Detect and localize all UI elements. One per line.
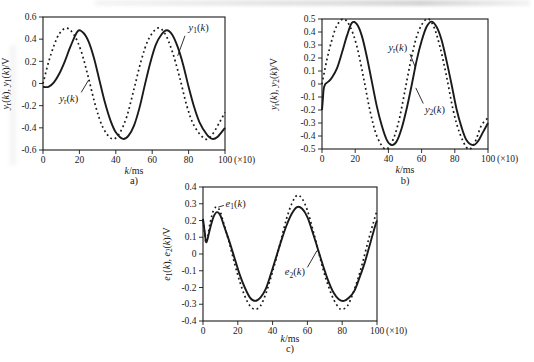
y-tick-label: -0.6: [21, 145, 36, 155]
y-tick-label: 0: [192, 249, 197, 259]
y-tick-label: -0.4: [300, 131, 315, 141]
y-axis-label: yr(k), y1(k)/V: [0, 57, 13, 111]
y-tick-label: 0.2: [304, 53, 316, 63]
y-axis-label: yr(k), y2(k)/V: [268, 57, 281, 111]
chart-b: 0.50.40.30.20.10-0.1-0.2-0.3-0.4-0.50204…: [268, 0, 534, 192]
annotation-leader-line: [218, 205, 224, 207]
x-tick-label: 0: [320, 154, 325, 164]
y-tick-label: 0.1: [185, 232, 197, 242]
y-tick-label: 0.4: [25, 34, 37, 44]
y-tick-label: -0.2: [181, 283, 196, 293]
x-scale-suffix: (×10): [234, 155, 255, 166]
x-tick-label: 60: [303, 326, 313, 336]
x-tick-label: 0: [201, 326, 206, 336]
y-tick-label: 0: [32, 79, 37, 89]
y-tick-label: 0.6: [25, 12, 37, 22]
curve-annotation-label: e1(k): [226, 198, 247, 211]
y-tick-label: 0: [311, 79, 316, 89]
x-tick-label: 80: [450, 154, 460, 164]
x-tick-label: 0: [41, 155, 46, 165]
x-tick-label: 100: [218, 155, 233, 165]
x-scale-suffix: (×10): [497, 154, 518, 165]
y-tick-label: -0.1: [181, 266, 196, 276]
y-tick-label: -0.2: [21, 101, 36, 111]
chart-c-caption: c): [203, 343, 377, 354]
x-tick-label: 100: [481, 154, 496, 164]
y-tick-label: -0.5: [300, 144, 315, 154]
solid-series-curve: [203, 207, 377, 301]
solid-series-curve: [322, 22, 488, 146]
y-tick-label: -0.3: [300, 118, 315, 128]
x-tick-label: 40: [111, 155, 121, 165]
y-tick-label: 0.1: [304, 66, 316, 76]
x-tick-label: 80: [184, 155, 194, 165]
y-tick-label: -0.4: [181, 316, 196, 326]
curve-annotation-label: y1(k): [188, 22, 210, 35]
y-tick-label: 0.5: [304, 14, 316, 24]
plot-frame: [43, 17, 225, 150]
y-tick-label: 0.4: [304, 27, 316, 37]
y-tick-label: 0.2: [25, 57, 37, 67]
x-tick-label: 100: [370, 326, 385, 336]
dotted-series-curve: [203, 195, 377, 309]
chart-a-canvas: 0.60.40.20-0.2-0.4-0.6020406080100(×10)y…: [0, 0, 266, 192]
chart-b-canvas: 0.50.40.30.20.10-0.1-0.2-0.3-0.4-0.50204…: [268, 0, 534, 192]
y-tick-label: 0.4: [185, 182, 197, 192]
x-tick-label: 40: [268, 326, 278, 336]
x-tick-label: 60: [417, 154, 427, 164]
annotation-leader-line: [416, 88, 423, 104]
chart-c: 0.40.30.20.10-0.1-0.2-0.3-0.402040608010…: [130, 183, 430, 362]
curve-annotation-label: yr(k): [58, 93, 78, 106]
x-axis-label: k/ms: [396, 164, 415, 175]
annotation-leader-line: [178, 36, 185, 56]
y-tick-label: 0.3: [185, 199, 197, 209]
y-tick-label: 0.2: [185, 216, 197, 226]
x-tick-label: 40: [384, 154, 394, 164]
x-tick-label: 20: [350, 154, 360, 164]
y-tick-label: -0.1: [300, 92, 315, 102]
annotation-leader-line: [307, 251, 317, 268]
x-tick-label: 20: [75, 155, 85, 165]
solid-series-curve: [43, 30, 225, 139]
y-tick-label: -0.4: [21, 123, 36, 133]
annotation-leader-line: [81, 80, 88, 92]
curve-annotation-label: yr(k): [387, 42, 407, 55]
curve-annotation-label: y2(k): [424, 104, 446, 117]
figure-page: 0.60.40.20-0.2-0.4-0.6020406080100(×10)y…: [0, 0, 534, 362]
x-tick-label: 60: [147, 155, 157, 165]
x-tick-label: 80: [337, 326, 347, 336]
x-scale-suffix: (×10): [386, 326, 407, 337]
x-tick-label: 20: [233, 326, 243, 336]
y-axis-label: e1(k), e2(k)/V: [161, 227, 174, 281]
y-tick-label: -0.2: [300, 105, 315, 115]
chart-a: 0.60.40.20-0.2-0.4-0.6020406080100(×10)y…: [0, 0, 266, 192]
y-tick-label: 0.3: [304, 40, 316, 50]
curve-annotation-label: e2(k): [285, 266, 306, 279]
chart-c-canvas: 0.40.30.20.10-0.1-0.2-0.3-0.402040608010…: [130, 183, 430, 362]
y-tick-label: -0.3: [181, 299, 196, 309]
